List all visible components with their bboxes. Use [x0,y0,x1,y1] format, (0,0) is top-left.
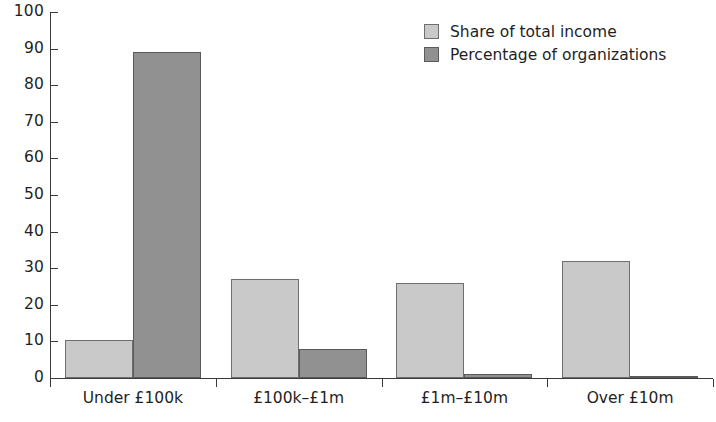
y-axis-tick-label: 40 [2,224,44,240]
y-axis-tick-label-wrap: 30 [0,260,44,276]
chart-legend: Share of total income Percentage of orga… [424,20,704,66]
y-axis-tick-label: 80 [2,77,44,93]
y-axis-tick-label-wrap: 80 [0,77,44,93]
y-axis-tick-label-wrap: 100 [0,4,44,20]
bar [464,374,532,378]
x-axis-category-label: Over £10m [547,389,713,407]
y-axis-tick-label: 90 [2,41,44,57]
bar [133,52,201,378]
legend-swatch-icon [424,47,439,62]
y-axis-tick-label: 70 [2,114,44,130]
bars-layer [50,12,713,378]
bar [562,261,630,378]
legend-item-label: Share of total income [450,24,617,40]
x-axis-tick [547,379,548,387]
y-axis-tick-label-wrap: 0 [0,370,44,386]
x-axis-tick [713,379,714,387]
y-axis-tick-label: 60 [2,150,44,166]
x-axis-tick [382,379,383,387]
bar-chart: 0102030405060708090100 Under £100k£100k–… [0,0,716,422]
y-axis-tick-label: 100 [2,4,44,20]
bar [630,376,698,378]
bar [65,340,133,378]
y-axis-tick-label-wrap: 20 [0,297,44,313]
y-axis-tick-label-wrap: 50 [0,187,44,203]
legend-item-label: Percentage of organizations [450,47,666,63]
bar [231,279,299,378]
legend-item-share-of-total-income: Share of total income [424,20,704,43]
y-axis-tick-label-wrap: 60 [0,150,44,166]
y-axis-tick-label: 30 [2,260,44,276]
y-axis-tick-label: 10 [2,333,44,349]
y-axis-tick [51,378,58,379]
y-axis-tick-label-wrap: 90 [0,41,44,57]
legend-swatch-icon [424,24,439,39]
x-axis-category-label: £1m–£10m [382,389,548,407]
bar [299,349,367,378]
y-axis-tick-label-wrap: 40 [0,224,44,240]
x-axis-category-label: £100k–£1m [216,389,382,407]
bar [396,283,464,378]
x-axis-tick [216,379,217,387]
y-axis-tick-label-wrap: 70 [0,114,44,130]
y-axis-tick-label: 0 [2,370,44,386]
y-axis-tick-label-wrap: 10 [0,333,44,349]
y-axis-tick-label: 20 [2,297,44,313]
legend-item-percentage-of-organizations: Percentage of organizations [424,43,704,66]
x-axis-category-label: Under £100k [50,389,216,407]
x-axis-tick [50,379,51,387]
y-axis-tick-label: 50 [2,187,44,203]
